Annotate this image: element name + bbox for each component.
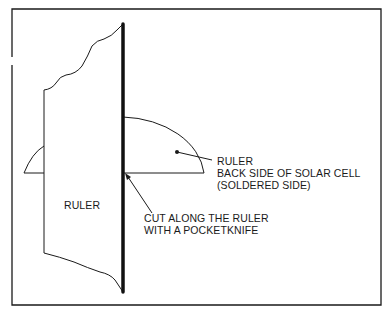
solar-cell-label-line1: BACK SIDE OF SOLAR CELL (217, 167, 361, 179)
cut-arrow (125, 173, 152, 213)
ruler-callout-label: RULER (217, 155, 253, 167)
ruler-shape (44, 24, 123, 292)
ruler-label: RULER (64, 199, 100, 211)
solar-cell-leader (177, 152, 212, 160)
cut-label-line2: WITH A POCKETKNIFE (144, 224, 258, 236)
diagram-canvas (0, 0, 389, 317)
solar-cell-label-line2: (SOLDERED SIDE) (217, 179, 311, 191)
cut-label-line1: CUT ALONG THE RULER (144, 212, 269, 224)
